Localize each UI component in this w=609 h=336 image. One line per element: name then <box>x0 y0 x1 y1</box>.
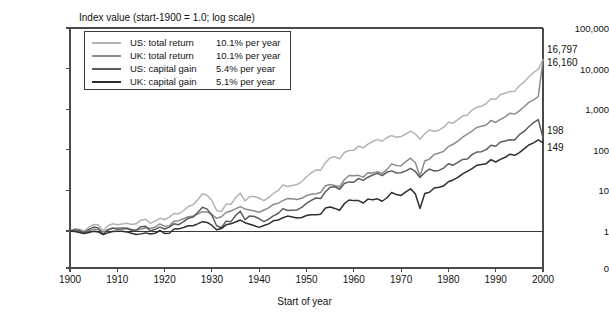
legend-series-name: UK: capital gain <box>130 76 216 87</box>
legend-series-rate: 5.4% per year <box>216 63 290 74</box>
series-end-label: 16,797 <box>547 44 578 55</box>
x-tick-label: 1930 <box>201 274 223 285</box>
y-tick-label: 1,000 <box>547 104 609 115</box>
x-tick-label: 1920 <box>153 274 175 285</box>
x-tick-label: 1980 <box>437 274 459 285</box>
series-end-label: 16,160 <box>547 57 578 68</box>
legend-label: UK: total return10.1% per year <box>130 50 290 61</box>
legend-label: US: capital gain5.4% per year <box>130 63 290 74</box>
x-tick-label: 1940 <box>248 274 270 285</box>
x-axis-label: Start of year <box>0 296 609 307</box>
y-tick-label: 10 <box>547 185 609 196</box>
legend-series-name: US: total return <box>130 37 216 48</box>
y-tick-label: 0 <box>547 263 609 274</box>
legend-series-name: US: capital gain <box>130 63 216 74</box>
y-tick-label: 1 <box>547 226 609 237</box>
x-tick-label: 1900 <box>59 274 81 285</box>
legend-item[interactable]: US: total return10.1% per year <box>85 36 290 49</box>
x-tick-label: 1970 <box>390 274 412 285</box>
legend-item[interactable]: UK: capital gain5.1% per year <box>85 75 290 88</box>
legend-label: US: total return10.1% per year <box>130 37 290 48</box>
legend-series-name: UK: total return <box>130 50 216 61</box>
legend-color-swatch <box>92 55 121 57</box>
chart-container: Index value (start-1900 = 1.0; log scale… <box>0 0 609 336</box>
legend-item[interactable]: US: capital gain5.4% per year <box>85 62 290 75</box>
x-tick-label: 2000 <box>532 274 554 285</box>
legend: US: total return10.1% per yearUK: total … <box>84 31 291 90</box>
legend-series-rate: 10.1% per year <box>216 37 290 48</box>
x-tick-label: 1960 <box>343 274 365 285</box>
series-end-label: 198 <box>547 124 564 135</box>
legend-series-rate: 10.1% per year <box>216 50 290 61</box>
x-tick-label: 1950 <box>295 274 317 285</box>
y-tick-label: 100,000 <box>547 23 609 34</box>
x-tick-label: 1990 <box>485 274 507 285</box>
legend-color-swatch <box>92 42 121 44</box>
x-tick-label: 1910 <box>106 274 128 285</box>
series-end-label: 149 <box>547 141 564 152</box>
legend-label: UK: capital gain5.1% per year <box>130 76 290 87</box>
legend-color-swatch <box>92 81 121 83</box>
legend-series-rate: 5.1% per year <box>216 76 290 87</box>
legend-color-swatch <box>92 68 121 70</box>
legend-item[interactable]: UK: total return10.1% per year <box>85 49 290 62</box>
